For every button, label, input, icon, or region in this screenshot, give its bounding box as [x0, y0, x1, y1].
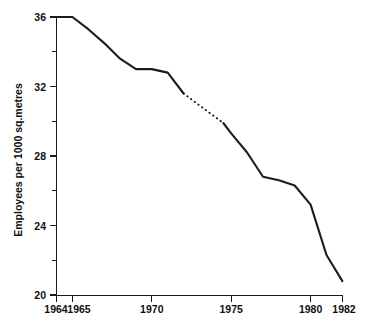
x-axis-major-ticks: [57, 296, 343, 303]
x-tick-label-1965: 1965: [67, 303, 91, 315]
x-axis-tick-labels: 1964 1965 1970 1975 1980 1982: [44, 303, 356, 315]
y-tick-label-28: 28: [34, 150, 46, 162]
axes: [57, 16, 343, 296]
chart-canvas: 36 32 28 24 20 1964 1965 1970 1975 1980 …: [0, 0, 382, 321]
data-line-segment-2: [223, 123, 342, 281]
y-axis-major-ticks: [50, 17, 57, 295]
x-tick-label-1970: 1970: [140, 303, 164, 315]
x-tick-label-1975: 1975: [220, 303, 244, 315]
y-tick-label-36: 36: [34, 11, 46, 23]
y-axis-title: Employees per 1000 sq.metres: [12, 83, 24, 237]
y-tick-label-20: 20: [34, 289, 46, 301]
data-line-dotted-gap: [184, 94, 224, 124]
y-tick-label-32: 32: [34, 81, 46, 93]
x-tick-label-1964: 1964: [44, 303, 68, 315]
x-tick-label-1980: 1980: [299, 303, 323, 315]
data-line-segment-1: [57, 17, 184, 94]
x-tick-label-1982: 1982: [332, 303, 356, 315]
y-axis-tick-labels: 36 32 28 24 20: [34, 11, 46, 301]
line-chart: 36 32 28 24 20 1964 1965 1970 1975 1980 …: [0, 0, 382, 321]
y-tick-label-24: 24: [34, 220, 46, 232]
